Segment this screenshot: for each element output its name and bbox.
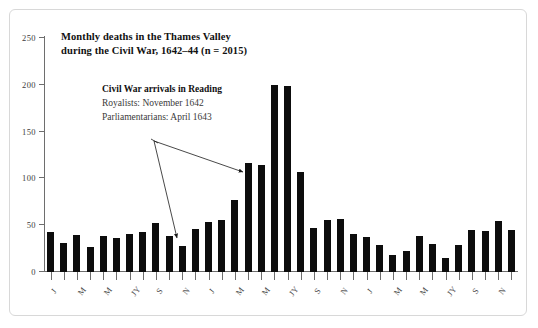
- y-axis-label: 150: [22, 127, 36, 137]
- y-axis-line: [44, 36, 45, 272]
- y-axis-tick: [39, 37, 44, 38]
- x-axis-tick: [274, 272, 275, 280]
- bar: [100, 236, 107, 273]
- y-axis-label: 0: [31, 267, 36, 277]
- x-axis-tick: [446, 272, 447, 280]
- bar: [310, 228, 317, 272]
- bar: [297, 172, 304, 272]
- bar: [482, 231, 489, 272]
- x-axis-tick: [90, 272, 91, 280]
- x-axis-tick: [367, 272, 368, 280]
- bar: [139, 232, 146, 272]
- bar: [73, 235, 80, 272]
- x-axis-tick: [169, 272, 170, 280]
- bar: [166, 236, 173, 273]
- bar: [87, 247, 94, 272]
- y-axis-tick: [39, 131, 44, 132]
- x-axis-tick: [130, 272, 131, 280]
- bar: [324, 220, 331, 272]
- y-axis-label: 100: [22, 173, 36, 183]
- x-axis-tick: [116, 272, 117, 280]
- bar: [468, 230, 475, 272]
- x-axis-tick: [143, 272, 144, 280]
- x-axis-tick: [103, 272, 104, 280]
- x-axis-tick: [485, 272, 486, 280]
- bar: [245, 163, 252, 272]
- x-axis-tick: [301, 272, 302, 280]
- bar: [231, 200, 238, 272]
- x-axis-tick: [235, 272, 236, 280]
- x-axis-tick: [51, 272, 52, 280]
- x-axis-tick: [288, 272, 289, 280]
- x-axis-tick: [406, 272, 407, 280]
- bar: [416, 236, 423, 272]
- y-axis-tick: [39, 84, 44, 85]
- x-axis-tick: [511, 272, 512, 280]
- bar: [363, 237, 370, 272]
- bar: [271, 85, 278, 272]
- x-axis-tick: [498, 272, 499, 280]
- bar: [179, 246, 186, 272]
- bar: [47, 232, 54, 272]
- x-axis-tick: [77, 272, 78, 280]
- plot-area: 050100150200250JMMJYSNJMMJYSNJMMJYSN: [44, 36, 518, 274]
- x-axis-tick: [380, 272, 381, 280]
- x-axis-tick: [209, 272, 210, 280]
- x-axis-tick: [419, 272, 420, 280]
- bar: [284, 86, 291, 272]
- bar: [429, 244, 436, 272]
- x-axis-tick: [459, 272, 460, 280]
- x-axis-tick: [156, 272, 157, 280]
- x-axis-tick: [261, 272, 262, 280]
- bar: [152, 223, 159, 272]
- bar: [442, 258, 449, 272]
- bar: [376, 245, 383, 272]
- y-axis-tick: [39, 271, 44, 272]
- x-axis-tick: [340, 272, 341, 280]
- y-axis-tick: [39, 224, 44, 225]
- bar: [337, 219, 344, 272]
- y-axis-label: 200: [22, 80, 36, 90]
- bar: [60, 243, 67, 272]
- bar: [113, 238, 120, 272]
- x-axis-tick: [314, 272, 315, 280]
- bar: [218, 220, 225, 272]
- y-axis-tick: [39, 177, 44, 178]
- bar: [508, 230, 515, 272]
- bar: [455, 245, 462, 272]
- bar: [389, 255, 396, 272]
- bar: [126, 234, 133, 272]
- x-axis-tick: [195, 272, 196, 280]
- x-axis-tick: [432, 272, 433, 280]
- x-axis-tick: [248, 272, 249, 280]
- x-axis-tick: [393, 272, 394, 280]
- bar: [205, 222, 212, 272]
- bar: [495, 221, 502, 272]
- x-axis-tick: [182, 272, 183, 280]
- y-axis-label: 50: [27, 220, 36, 230]
- x-axis-tick: [327, 272, 328, 280]
- bar: [350, 234, 357, 272]
- x-axis-tick: [353, 272, 354, 280]
- y-axis-label: 250: [22, 33, 36, 43]
- bar: [258, 165, 265, 272]
- x-axis-tick: [472, 272, 473, 280]
- x-axis-tick: [222, 272, 223, 280]
- chart-figure: Monthly deaths in the Thames Valley duri…: [0, 0, 538, 328]
- bar: [403, 251, 410, 272]
- x-axis-tick: [64, 272, 65, 280]
- bar: [192, 229, 199, 272]
